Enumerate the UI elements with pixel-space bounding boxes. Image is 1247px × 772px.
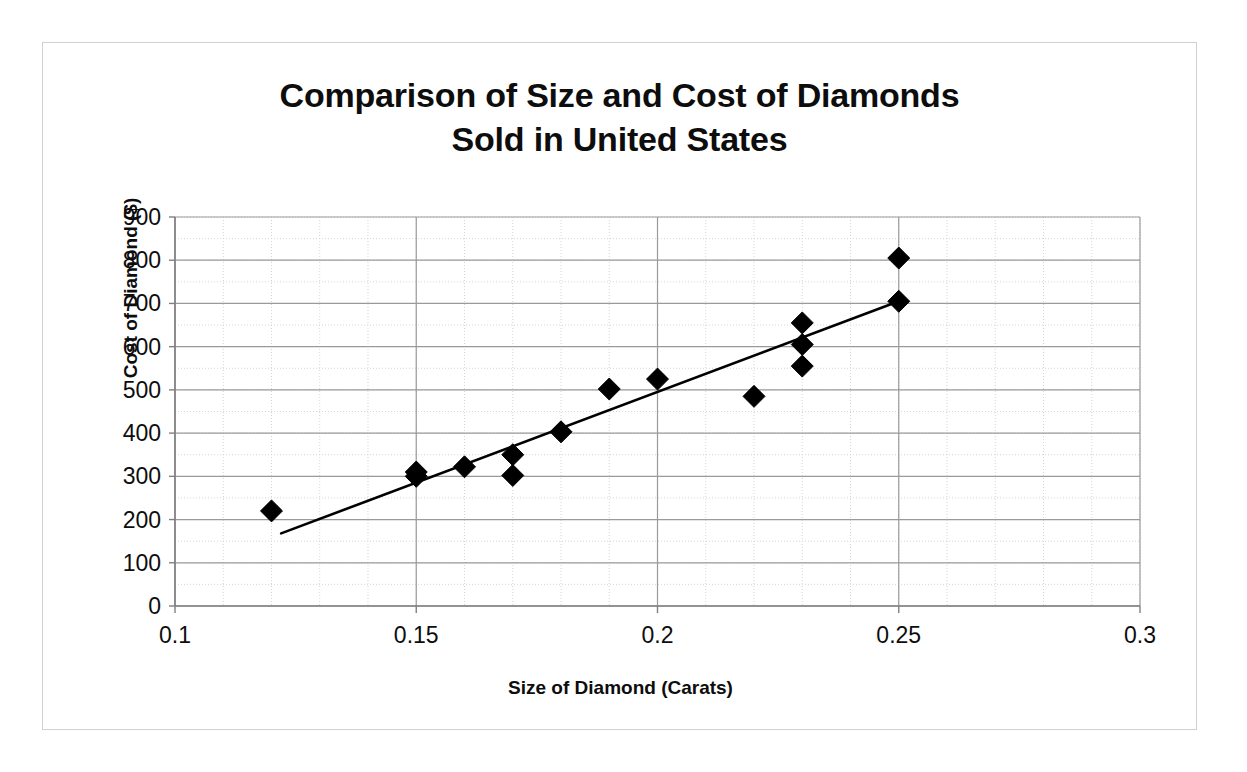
figure-frame: Comparison of Size and Cost of Diamonds … (42, 42, 1197, 730)
data-point-marker (743, 385, 765, 407)
plot-area: 0100200300400500600700800900 0.10.150.20… (175, 217, 1140, 606)
x-axis-title: Size of Diamond (Carats) (43, 677, 1198, 699)
x-axis-tick-label: 0.25 (876, 622, 921, 649)
data-point-marker (888, 290, 910, 312)
data-point-marker (598, 378, 620, 400)
data-points (261, 247, 910, 522)
y-axis-tick-label: 200 (123, 506, 161, 533)
data-point-marker (888, 247, 910, 269)
data-point-marker (791, 334, 813, 356)
y-axis-tick-label: 500 (123, 376, 161, 403)
chart-title: Comparison of Size and Cost of Diamonds … (43, 73, 1196, 161)
y-axis-tick-label: 100 (123, 549, 161, 576)
data-point-marker (502, 444, 524, 466)
x-axis-tick-label: 0.2 (642, 622, 674, 649)
y-axis-tick-label: 700 (123, 290, 161, 317)
plot-svg (175, 217, 1140, 606)
x-axis-tick-label: 0.3 (1124, 622, 1156, 649)
data-point-marker (791, 312, 813, 334)
x-axis-tick-label: 0.15 (394, 622, 439, 649)
data-point-marker (647, 368, 669, 390)
data-point-marker (454, 456, 476, 478)
y-axis-tick-label: 300 (123, 463, 161, 490)
y-axis-tick-label: 900 (123, 204, 161, 231)
data-point-marker (261, 500, 283, 522)
chart-page: Comparison of Size and Cost of Diamonds … (0, 0, 1247, 772)
y-axis-tick-label: 800 (123, 247, 161, 274)
x-axis-tick-label: 0.1 (159, 622, 191, 649)
axis-lines (169, 217, 1140, 613)
y-axis-tick-label: 600 (123, 333, 161, 360)
y-axis-tick-label: 0 (148, 593, 161, 620)
trendline (281, 301, 899, 533)
trendline-segment (281, 301, 899, 533)
data-point-marker (791, 355, 813, 377)
data-point-marker (502, 464, 524, 486)
y-axis-tick-label: 400 (123, 420, 161, 447)
